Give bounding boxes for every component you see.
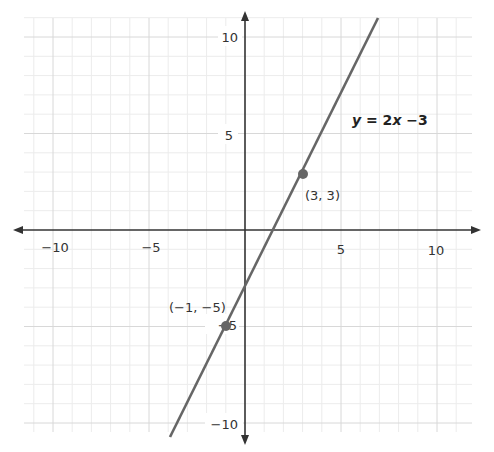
y-tick-label: 5 [225,128,233,143]
x-tick-label: −5 [141,240,160,255]
point-3-3 [298,169,308,179]
function-line [170,18,378,437]
equation-label: y = 2x −3 [352,112,428,128]
point-label: (−1, −5) [169,300,226,315]
grid-minor [24,18,472,432]
point-label: (3, 3) [305,188,340,203]
x-tick-label: 5 [337,242,345,257]
point-neg1-neg5 [221,321,231,331]
x-tick-label: −10 [41,240,68,255]
y-tick-label: 10 [221,30,238,45]
x-tick-label: 10 [428,243,445,258]
coordinate-plane: −10 −5 5 10 10 5 −5 −10 (3, 3) (−1, −5) … [0,0,494,452]
y-tick-label: −10 [211,417,238,432]
